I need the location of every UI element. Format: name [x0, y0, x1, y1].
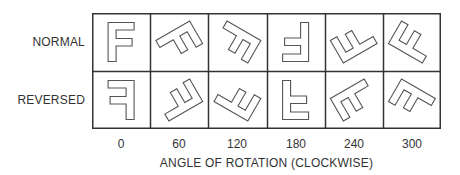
- row-label-normal: NORMAL: [32, 35, 85, 49]
- col-label-240: 240: [325, 137, 383, 151]
- glyph-normal-0: [108, 23, 134, 62]
- col-label-60: 60: [150, 137, 208, 151]
- rotation-grid: [92, 13, 441, 129]
- row-label-reversed: REVERSED: [17, 93, 85, 107]
- col-label-180: 180: [267, 137, 325, 151]
- col-label-300: 300: [383, 137, 441, 151]
- col-label-0: 0: [92, 137, 150, 151]
- glyph-reversed-180: [283, 81, 309, 120]
- glyph-reversed-60: [156, 79, 203, 121]
- col-label-120: 120: [208, 137, 266, 151]
- glyph-normal-120: [214, 21, 261, 63]
- glyph-reversed-120: [214, 79, 261, 121]
- glyph-reversed-240: [330, 79, 377, 121]
- rotation-grid-drawing: [92, 13, 441, 129]
- glyph-reversed-300: [389, 79, 436, 121]
- glyph-normal-180: [283, 23, 309, 62]
- glyph-reversed-0: [108, 81, 134, 120]
- glyph-normal-240: [330, 21, 377, 63]
- glyph-normal-300: [389, 21, 436, 63]
- glyph-normal-60: [156, 21, 203, 63]
- axis-title: ANGLE OF ROTATION (CLOCKWISE): [92, 156, 441, 170]
